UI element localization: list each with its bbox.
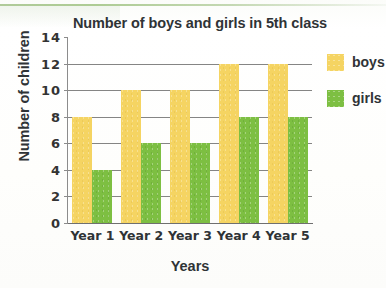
bar-boys: [170, 90, 190, 223]
bar-boys: [72, 117, 92, 223]
bar-group: [121, 37, 161, 223]
y-tick-mark: [64, 90, 68, 91]
legend-label: boys: [352, 54, 385, 70]
bar-boys: [219, 64, 239, 223]
y-tick-label: 4: [51, 162, 61, 177]
x-tick-label: Year 2: [119, 228, 163, 243]
y-axis-title: Number of children: [16, 16, 32, 176]
legend-swatch-boys: [327, 54, 344, 71]
bar-chart-figure: Number of boys and girls in 5th class Nu…: [0, 0, 386, 288]
y-tick-label: 14: [41, 30, 61, 45]
y-tick-label: 8: [51, 109, 61, 124]
legend-swatch-girls: [327, 90, 344, 107]
y-tick-mark: [64, 223, 68, 224]
bar-girls: [239, 117, 259, 223]
legend-item: girls: [327, 88, 385, 108]
bar-group: [170, 37, 210, 223]
chart-title: Number of boys and girls in 5th class: [70, 15, 330, 31]
y-tick-label: 6: [51, 136, 61, 151]
y-tick-mark: [64, 143, 68, 144]
bar-group: [72, 37, 112, 223]
plot-area: 02468101214: [68, 37, 312, 223]
y-axis-line: [67, 37, 68, 223]
bar-girls: [141, 143, 161, 223]
y-tick-label: 0: [51, 216, 61, 231]
x-tick-label: Year 1: [70, 228, 114, 243]
x-tick-label: Year 3: [168, 228, 212, 243]
legend-item: boys: [327, 52, 385, 72]
y-tick-mark: [64, 117, 68, 118]
bar-group: [219, 37, 259, 223]
bar-boys: [121, 90, 141, 223]
bar-boys: [268, 64, 288, 223]
y-tick-mark: [64, 196, 68, 197]
x-tick-label: Year 4: [217, 228, 261, 243]
bar-girls: [288, 117, 308, 223]
x-axis-title: Years: [68, 258, 312, 274]
bar-girls: [92, 170, 112, 223]
bar-group: [268, 37, 308, 223]
y-tick-mark: [64, 37, 68, 38]
legend-label: girls: [352, 90, 382, 106]
y-tick-mark: [64, 64, 68, 65]
y-tick-label: 12: [41, 56, 61, 71]
y-tick-label: 10: [41, 83, 61, 98]
chart-legend: boysgirls: [327, 52, 385, 124]
x-tick-label: Year 5: [266, 228, 310, 243]
bar-girls: [190, 143, 210, 223]
y-tick-mark: [64, 170, 68, 171]
y-tick-label: 2: [51, 189, 61, 204]
